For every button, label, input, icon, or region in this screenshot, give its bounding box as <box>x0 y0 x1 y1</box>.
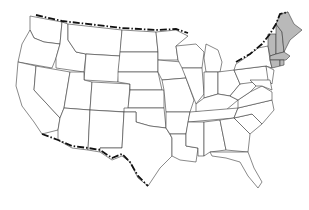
state-new-mexico[interactable] <box>88 110 124 152</box>
state-north-dakota[interactable] <box>120 30 158 52</box>
state-wisconsin[interactable] <box>176 44 204 68</box>
state-vermont[interactable] <box>268 34 276 56</box>
state-kansas[interactable] <box>128 90 164 108</box>
state-rhode-island[interactable] <box>280 60 284 66</box>
state-connecticut[interactable] <box>270 60 280 68</box>
state-florida[interactable] <box>210 152 262 188</box>
state-arizona[interactable] <box>58 108 90 150</box>
state-michigan[interactable] <box>204 44 222 72</box>
state-wyoming[interactable] <box>84 54 120 82</box>
state-indiana[interactable] <box>204 72 218 98</box>
us-map <box>0 0 309 210</box>
state-south-dakota[interactable] <box>118 52 158 72</box>
states-layer <box>16 12 302 188</box>
state-montana[interactable] <box>68 24 122 56</box>
state-colorado[interactable] <box>90 82 130 112</box>
